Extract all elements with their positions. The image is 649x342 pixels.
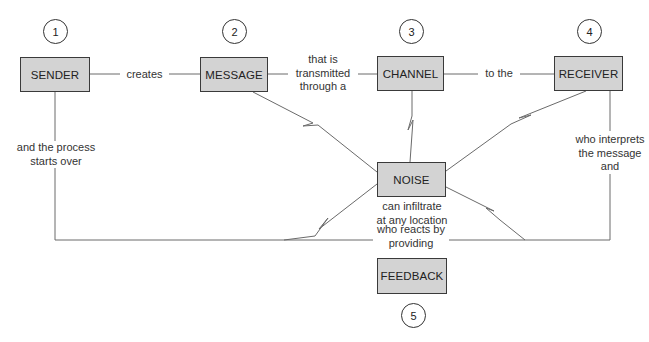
step-2-marker: 2 (222, 19, 247, 44)
edge-label-reacts: who reacts by providing (373, 223, 449, 250)
edge-label-starts-over: and the process starts over (14, 141, 98, 168)
noise-node: NOISE (377, 162, 446, 197)
noise-label: NOISE (393, 174, 429, 186)
edge-label-transmitted: that is transmitted through a (288, 53, 358, 94)
sender-label: SENDER (31, 69, 80, 81)
edge-label-interprets: who interprets the message and (566, 133, 649, 174)
feedback-node: FEEDBACK (377, 258, 447, 294)
receiver-node: RECEIVER (554, 56, 623, 91)
step-5-marker: 5 (401, 303, 426, 328)
message-label: MESSAGE (205, 69, 263, 81)
receiver-label: RECEIVER (559, 68, 619, 80)
edge-label-creates: creates (120, 68, 169, 82)
edge-label-to-the: to the (478, 67, 520, 81)
step-3-marker: 3 (399, 19, 424, 44)
feedback-label: FEEDBACK (381, 270, 444, 282)
step-1-marker: 1 (43, 19, 68, 44)
channel-label: CHANNEL (383, 68, 439, 80)
message-node: MESSAGE (200, 57, 268, 92)
sender-node: SENDER (20, 57, 90, 92)
channel-node: CHANNEL (377, 56, 444, 91)
step-4-marker: 4 (577, 19, 602, 44)
noise-note: can infiltrate at any location (372, 200, 452, 227)
